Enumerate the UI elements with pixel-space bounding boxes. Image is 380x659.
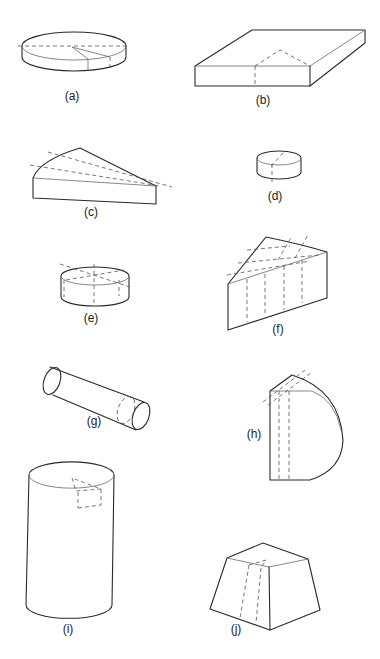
panel-h-half-round: (h) — [247, 370, 343, 480]
panel-c-label: (c) — [84, 205, 98, 219]
panel-b-slab: (b) — [195, 30, 365, 107]
panel-j-frustum: (j) — [210, 543, 320, 636]
panel-d-small-cylinder: (d) — [257, 151, 301, 203]
panel-c-wedge: (c) — [30, 148, 172, 219]
panel-j-label: (j) — [231, 622, 242, 636]
panel-a-disc: (a) — [18, 32, 130, 103]
panel-f-sector-block: (f) — [227, 235, 327, 336]
panel-h-label: (h) — [247, 427, 262, 441]
panel-e-cylinder: (e) — [60, 264, 130, 325]
panel-i-label: (i) — [63, 622, 74, 636]
figure-canvas: (a) (b) (c) (d) (e) — [0, 0, 380, 659]
panel-f-label: (f) — [272, 322, 283, 336]
panel-b-label: (b) — [256, 93, 271, 107]
panel-a-label: (a) — [65, 89, 80, 103]
panel-g-label: (g) — [87, 414, 102, 428]
panel-e-label: (e) — [84, 311, 99, 325]
panel-g-rod: (g) — [40, 365, 154, 432]
panel-d-label: (d) — [268, 189, 283, 203]
panel-i-tall-cylinder: (i) — [26, 462, 114, 636]
